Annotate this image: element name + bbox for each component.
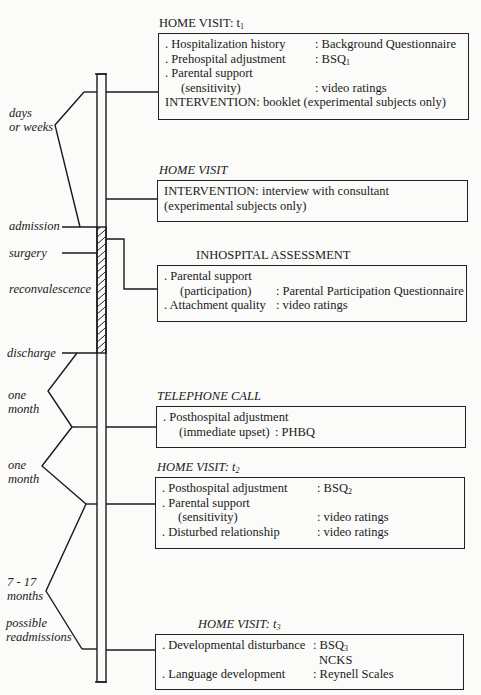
timeline-bar	[97, 74, 106, 682]
measure-row: . Prehospital adjustment: BSQ1	[165, 52, 462, 67]
event-box-home-visit-intervention: INTERVENTION: interview with consultant …	[157, 180, 468, 222]
measure-row: NCKS	[162, 653, 457, 668]
event-box-inhospital-assessment: . Parental support (participation): Pare…	[157, 265, 467, 322]
event-title-home-visit-t1: HOME VISIT: t1	[159, 16, 244, 30]
measure-row: (participation): Parental Participation …	[164, 284, 460, 299]
measure-row: . Disturbed relationship: video ratings	[162, 525, 458, 540]
measure-row: . Parental support	[162, 496, 458, 511]
event-title-home-visit-t2: HOME VISIT: t2	[157, 460, 239, 474]
interval-label-days-or-weeks: days or weeks	[9, 106, 53, 134]
event-box-home-visit-t1: . Hospitalization history: Background Qu…	[158, 33, 469, 120]
measure-row: (immediate upset): PHBQ	[163, 425, 459, 440]
interval-label-possible-readmissions: possible readmissions	[6, 616, 72, 644]
event-box-home-visit-t2: . Posthospital adjustment: BSQ2 . Parent…	[155, 477, 465, 549]
measure-row: . Posthospital adjustment: BSQ2	[162, 481, 458, 496]
interval-label-one-month-2: one month	[8, 458, 39, 486]
intervention-row: INTERVENTION: interview with consultant	[164, 184, 461, 199]
event-title-telephone-call: TELEPHONE CALL	[157, 389, 261, 403]
measure-row: . Hospitalization history: Background Qu…	[165, 37, 462, 52]
measure-row: . Developmental disturbance: BSQ3	[162, 638, 457, 653]
event-title-inhospital-assessment: INHOSPITAL ASSESSMENT	[196, 248, 350, 262]
hospital-stay-hatch	[97, 227, 106, 353]
measure-row: . Posthospital adjustment	[163, 410, 459, 425]
interval-label-7-17-months: 7 - 17 months	[7, 575, 43, 603]
measure-row: . Parental support	[164, 269, 460, 284]
measure-row: . Parental support	[165, 66, 462, 81]
event-title-home-visit-t3: HOME VISIT: t3	[198, 617, 280, 631]
event-title-home-visit: HOME VISIT	[159, 163, 227, 177]
measure-row: (sensitivity): video ratings	[165, 81, 462, 96]
event-box-home-visit-t3: . Developmental disturbance: BSQ3 NCKS .…	[155, 634, 464, 690]
label-reconvalescence: reconvalescence	[9, 282, 91, 296]
measure-row: . Language development: Reynell Scales	[162, 667, 457, 682]
label-discharge: discharge	[7, 346, 56, 360]
label-admission: admission	[9, 219, 60, 233]
intervention-row: INTERVENTION: booklet (experimental subj…	[165, 95, 462, 110]
measure-row: . Attachment quality: video ratings	[164, 298, 460, 313]
intervention-row: (experimental subjects only)	[164, 199, 461, 214]
event-box-telephone-call: . Posthospital adjustment (immediate ups…	[156, 406, 466, 448]
interval-label-one-month-1: one month	[8, 388, 39, 416]
label-surgery: surgery	[9, 246, 47, 260]
measure-row: (sensitivity): video ratings	[162, 510, 458, 525]
